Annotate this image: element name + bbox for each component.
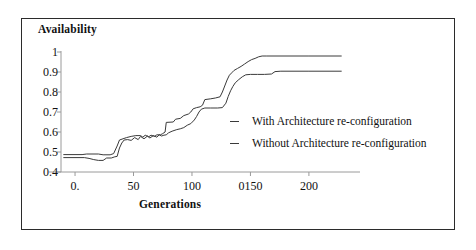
- legend-dash-icon: [228, 138, 242, 148]
- x-tick-label: 50: [104, 180, 164, 192]
- legend-label: With Architecture re-configuration: [252, 115, 412, 127]
- x-tick-label: 200: [279, 180, 339, 192]
- chart-figure: Availability 10.90.80.70.60.50.4 0.50100…: [0, 0, 476, 250]
- legend-dash-icon: [228, 116, 242, 126]
- x-tick-label: 0150: [220, 180, 280, 192]
- x-axis-title: Generations: [0, 198, 340, 210]
- chart-legend: With Architecture re-configurationWithou…: [228, 110, 448, 154]
- legend-label: Without Architecture re-configuration: [252, 137, 427, 149]
- x-tick-label: 0.: [45, 180, 105, 192]
- x-tick-label: 100: [162, 180, 222, 192]
- legend-item: With Architecture re-configuration: [228, 110, 448, 132]
- legend-item: Without Architecture re-configuration: [228, 132, 448, 154]
